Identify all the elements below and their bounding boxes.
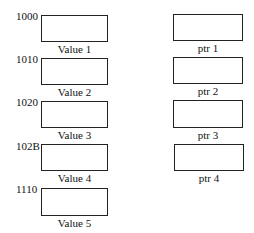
pointer-box (173, 57, 243, 84)
pointer-box (173, 14, 243, 41)
value-box (41, 58, 108, 85)
address-label: 1110 (16, 184, 37, 195)
value-box (41, 144, 108, 171)
address-label: 1000 (16, 11, 38, 22)
value-label: Value 5 (41, 217, 108, 229)
value-label: Value 1 (41, 43, 108, 55)
value-label: Value 3 (41, 129, 108, 141)
pointer-label: ptr 2 (173, 85, 243, 97)
address-label: 1020 (16, 97, 38, 108)
pointer-box (173, 100, 243, 128)
pointer-label: ptr 3 (173, 129, 243, 141)
value-label: Value 2 (41, 86, 108, 98)
value-box (41, 101, 108, 128)
pointer-label: ptr 4 (174, 172, 244, 184)
pointer-box (174, 144, 244, 171)
pointer-label: ptr 1 (173, 42, 243, 54)
value-box (41, 15, 108, 42)
value-box (41, 188, 108, 216)
address-label: 102B (16, 141, 40, 152)
address-label: 1010 (16, 54, 38, 65)
value-label: Value 4 (41, 172, 108, 184)
